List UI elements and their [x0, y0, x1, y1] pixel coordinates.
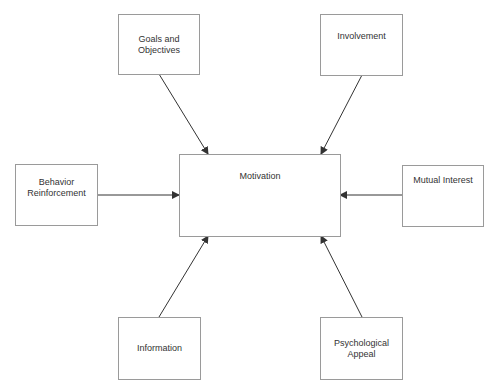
node-mutual-interest: Mutual Interest	[402, 165, 484, 227]
node-behavior-reinforcement: Behavior Reinforcement	[15, 164, 98, 226]
arrow-information-to-motivation	[159, 236, 208, 317]
arrow-involvement-to-motivation	[321, 75, 362, 154]
arrow-goals-to-motivation	[159, 74, 208, 154]
node-goals-and-objectives: Goals and Objectives	[118, 14, 200, 75]
node-psychological-appeal: Psychological Appeal	[320, 317, 403, 380]
node-motivation-center: Motivation	[179, 154, 341, 237]
node-involvement: Involvement	[320, 14, 403, 76]
node-information: Information	[118, 317, 201, 380]
arrow-psych-to-motivation	[321, 236, 362, 317]
